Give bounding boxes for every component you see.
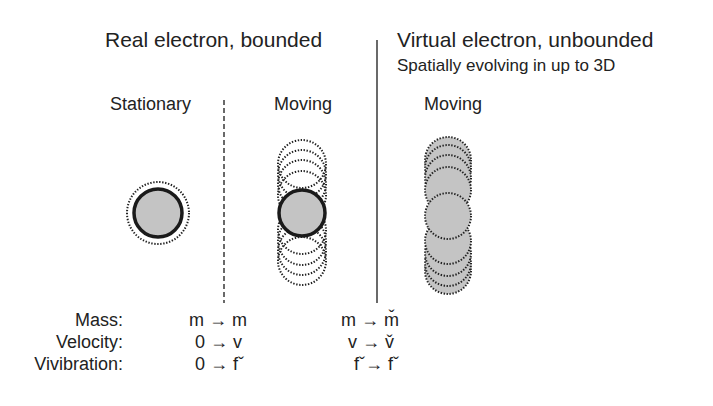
mass-label: Mass: (0, 310, 123, 331)
mass-virtual-value: m → m̌ (341, 310, 399, 331)
velocity-real-value: 0 → v (195, 332, 242, 353)
velocity-virtual-value: v → v̌ (348, 332, 394, 353)
vivibration-real-value: 0 → fˇ (195, 354, 244, 375)
moving-virtual-electron (425, 137, 471, 294)
velocity-label: Velocity: (0, 332, 123, 353)
moving-real-electron (278, 140, 326, 285)
stationary-electron (127, 182, 189, 244)
mass-real-value: m → m (189, 310, 247, 331)
vivibration-label: Vivibration: (0, 354, 123, 375)
vivibration-virtual-value: fˇ→ fˇ (354, 354, 399, 375)
